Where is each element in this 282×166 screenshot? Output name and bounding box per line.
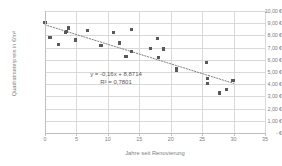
y-axis-tick-label: 3,00 € — [238, 93, 282, 99]
data-point — [112, 31, 115, 34]
data-point — [48, 36, 51, 39]
y-axis-tick-label: 9,00 € — [238, 20, 282, 26]
data-point — [86, 29, 89, 32]
data-point — [124, 55, 127, 58]
x-axis-tick-mark — [265, 133, 266, 136]
data-point — [118, 41, 121, 44]
x-axis-line — [45, 133, 265, 134]
data-point — [157, 56, 160, 59]
regression-equation: y = -0,16x + 8,8714 — [66, 70, 166, 78]
data-point — [149, 47, 152, 50]
data-point — [162, 47, 165, 50]
data-point — [206, 82, 209, 85]
x-axis-tick-label: 30 — [224, 136, 244, 142]
r-squared-value: R² = 0,7801 — [66, 78, 166, 86]
x-axis-tick-label: 35 — [255, 136, 275, 142]
x-axis-tick-label: 5 — [66, 136, 86, 142]
y-axis-tick-label: 4,00 € — [238, 81, 282, 87]
data-point — [175, 69, 178, 72]
y-axis-tick-label: 6,00 € — [238, 57, 282, 63]
gridline-horizontal — [45, 96, 265, 97]
y-axis-tick-label: 2,00 € — [238, 106, 282, 112]
x-axis-tick-mark — [108, 133, 109, 136]
data-point — [67, 26, 70, 29]
x-axis-title: Jahre seit Renovierung — [45, 150, 265, 157]
gridline-horizontal — [45, 23, 265, 24]
y-axis-tick-label: 7,00 € — [238, 45, 282, 51]
gridline-horizontal — [45, 121, 265, 122]
x-axis-tick-mark — [171, 133, 172, 136]
x-axis-tick-mark — [234, 133, 235, 136]
y-axis-tick-label: 1,00 € — [238, 118, 282, 124]
gridline-vertical — [234, 11, 235, 133]
data-point — [231, 79, 234, 82]
data-point — [99, 44, 102, 47]
x-axis-tick-label: 15 — [129, 136, 149, 142]
trendline-equation-annotation: y = -0,16x + 8,8714 R² = 0,7801 — [66, 70, 166, 87]
x-axis-tick-mark — [139, 133, 140, 136]
gridline-horizontal — [45, 60, 265, 61]
x-axis-tick-mark — [76, 133, 77, 136]
data-point — [156, 37, 159, 40]
y-axis-title: Quadratmeterpreis in €/m² — [11, 9, 18, 119]
data-point — [74, 38, 77, 41]
gridline-horizontal — [45, 109, 265, 110]
data-point — [225, 88, 228, 91]
data-point — [205, 61, 208, 64]
x-axis-tick-mark — [45, 133, 46, 136]
gridline-vertical — [171, 11, 172, 133]
data-point — [57, 43, 60, 46]
gridline-vertical — [202, 11, 203, 133]
y-axis-line — [45, 11, 46, 133]
x-axis-tick-label: 10 — [98, 136, 118, 142]
data-point — [130, 50, 133, 53]
x-axis-tick-label: 20 — [161, 136, 181, 142]
x-axis-tick-mark — [202, 133, 203, 136]
x-axis-tick-label: 0 — [35, 136, 55, 142]
y-axis-tick-label: 8,00 € — [238, 32, 282, 38]
x-axis-tick-label: 25 — [192, 136, 212, 142]
y-axis-tick-label: 10,00 € — [238, 8, 282, 14]
data-point — [218, 91, 221, 94]
gridline-horizontal — [45, 11, 265, 12]
data-point — [206, 77, 209, 80]
data-point — [65, 30, 68, 33]
data-point — [130, 28, 133, 31]
y-axis-tick-label: 5,00 € — [238, 69, 282, 75]
gridline-horizontal — [45, 48, 265, 49]
scatter-chart: Quadratmeterpreis in €/m² - €1,00 €2,00 … — [0, 0, 282, 166]
